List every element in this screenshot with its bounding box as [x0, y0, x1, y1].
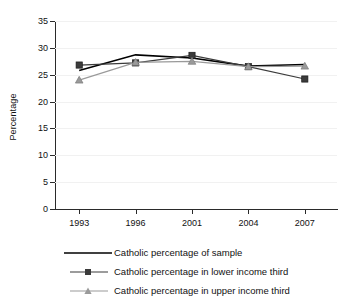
- legend-item: Catholic percentage in upper income thir…: [62, 281, 342, 300]
- legend-swatch-triangle: [62, 285, 114, 297]
- legend-swatch-square: [62, 266, 114, 278]
- x-tick-label: 2007: [295, 218, 315, 229]
- y-axis-title: Percentage: [8, 0, 18, 62]
- data-point-marker: [76, 62, 82, 68]
- plot-area: 05101520253035: [55, 21, 337, 209]
- legend-label: Catholic percentage of sample: [114, 247, 242, 259]
- y-tick-label: 10: [38, 151, 48, 160]
- y-tick: [50, 209, 55, 210]
- x-axis-line: [55, 209, 338, 210]
- y-tick-label: 0: [43, 205, 48, 214]
- legend-swatch-line: [62, 247, 114, 259]
- y-tick-label: 30: [38, 43, 48, 52]
- x-tick: [305, 209, 306, 214]
- x-tick: [248, 209, 249, 214]
- y-tick-label: 5: [43, 178, 48, 187]
- series-plot: [55, 21, 337, 209]
- y-axis-title-text: Percentage: [8, 62, 18, 172]
- legend-label: Catholic percentage in upper income thir…: [114, 285, 290, 297]
- x-tick: [79, 209, 80, 214]
- data-point-marker: [302, 76, 308, 82]
- x-tick: [136, 209, 137, 214]
- y-tick-label: 15: [38, 124, 48, 133]
- y-tick-label: 35: [38, 17, 48, 26]
- y-tick-label: 20: [38, 97, 48, 106]
- x-tick-label: 1993: [69, 218, 89, 229]
- x-tick: [192, 209, 193, 214]
- legend-item: Catholic percentage of sample: [62, 243, 342, 262]
- legend-item: Catholic percentage in lower income thir…: [62, 262, 342, 281]
- chart-figure: Percentage 05101520253035 19931996200120…: [0, 0, 349, 307]
- y-tick-label: 25: [38, 70, 48, 79]
- chart-legend: Catholic percentage of sample Catholic p…: [62, 243, 342, 300]
- x-tick-label: 1996: [126, 218, 146, 229]
- x-tick-label: 2004: [238, 218, 258, 229]
- x-tick-label: 2001: [182, 218, 202, 229]
- legend-label: Catholic percentage in lower income thir…: [114, 266, 288, 278]
